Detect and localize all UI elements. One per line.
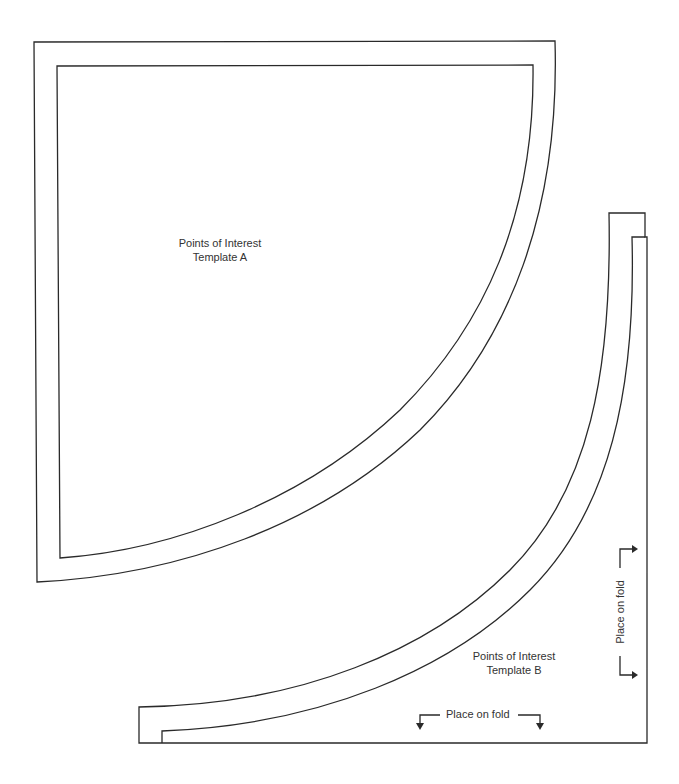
template-a-title-line1: Points of Interest	[170, 236, 270, 250]
template-a-inner-outline	[57, 65, 533, 558]
template-outlines	[0, 0, 679, 784]
template-a-title-line2: Template A	[170, 250, 270, 264]
template-b-title-line1: Points of Interest	[464, 649, 564, 663]
template-a-title: Points of Interest Template A	[170, 236, 270, 264]
fold-label-side: Place on fold	[614, 575, 626, 649]
template-b-outer-outline	[139, 213, 647, 743]
template-b-title: Points of Interest Template B	[464, 649, 564, 677]
template-b-inner-outline	[162, 237, 645, 743]
template-a-outer-outline	[34, 41, 555, 582]
fold-label-bottom: Place on fold	[446, 708, 510, 720]
template-sheet: Points of Interest Template A Points of …	[0, 0, 679, 784]
template-b-title-line2: Template B	[464, 663, 564, 677]
